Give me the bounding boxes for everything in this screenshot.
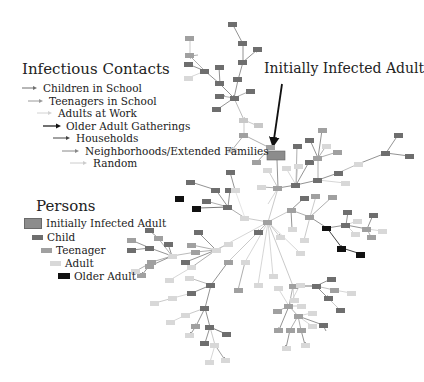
persons-legend-item-teenager: Teenager [41, 244, 106, 256]
swatch-icon [50, 261, 61, 266]
contacts-legend-label: Older Adult Gatherings [66, 120, 190, 132]
contacts-legend-item-children-school: Children in School [22, 82, 142, 94]
arrow-icon [37, 110, 53, 116]
contacts-legend-item-teenagers-school: Teenagers in School [28, 95, 157, 107]
contacts-legend-label: Adults at Work [58, 107, 137, 119]
contacts-legend-item-adults-work: Adults at Work [37, 107, 137, 119]
persons-legend-label: Child [47, 231, 75, 243]
initially-infected-callout: Initially Infected Adult [264, 60, 424, 76]
swatch-icon [41, 248, 52, 253]
arrow-icon [70, 160, 88, 166]
arrow-icon [53, 135, 71, 141]
swatch-icon [58, 273, 70, 279]
persons-legend-item-child: Child [32, 231, 75, 243]
initially-infected-node [267, 151, 285, 160]
swatch-icon [32, 235, 43, 240]
contacts-legend-label: Households [76, 132, 138, 144]
contacts-legend-item-households: Households [53, 132, 138, 144]
contacts-legend-label: Neighborhoods/Extended Families [85, 145, 269, 157]
contacts-legend-item-older-adult-gatherings: Older Adult Gatherings [43, 120, 190, 132]
contacts-legend-item-random: Random [70, 157, 137, 169]
arrow-icon [22, 85, 38, 91]
persons-legend-item-adult: Adult [50, 257, 94, 269]
persons-legend-item-initially-infected: Initially Infected Adult [24, 217, 166, 229]
persons-legend-title: Persons [36, 197, 96, 215]
persons-legend-label: Teenager [56, 244, 106, 256]
contacts-legend-title: Infectious Contacts [22, 60, 170, 78]
persons-legend-label: Older Adult [74, 270, 136, 282]
arrow-icon [62, 148, 80, 154]
contacts-legend-label: Teenagers in School [49, 95, 157, 107]
swatch-icon [24, 218, 42, 229]
contacts-legend-label: Children in School [43, 82, 142, 94]
arrow-icon [28, 98, 44, 104]
contacts-legend-label: Random [93, 157, 137, 169]
callout-arrow [273, 84, 282, 146]
arrow-icon [43, 123, 61, 129]
persons-legend-label: Adult [65, 257, 94, 269]
contacts-legend-item-neighborhoods: Neighborhoods/Extended Families [62, 145, 269, 157]
persons-legend-label: Initially Infected Adult [46, 217, 166, 229]
persons-legend-item-older-adult: Older Adult [58, 270, 136, 282]
